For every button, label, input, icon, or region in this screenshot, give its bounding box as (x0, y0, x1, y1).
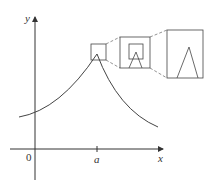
origin-label: 0 (26, 151, 32, 163)
connector-1-top (106, 37, 120, 44)
diagram: y x 0 a (0, 0, 224, 188)
zoom-box-3 (167, 30, 203, 78)
zoom-2-cusp (129, 52, 142, 68)
tick-label-a: a (94, 153, 100, 165)
connector-2-bottom (150, 68, 167, 78)
curve-left (19, 54, 97, 117)
connector-1-bottom (106, 60, 120, 68)
y-axis-label: y (24, 12, 30, 24)
connector-2-top (150, 30, 167, 37)
x-axis-label: x (157, 152, 163, 164)
zoom-box-2 (120, 37, 150, 68)
cusp-diagram: y x 0 a (0, 0, 224, 188)
curve-right (97, 54, 158, 127)
zoom-3-cusp (177, 47, 198, 78)
